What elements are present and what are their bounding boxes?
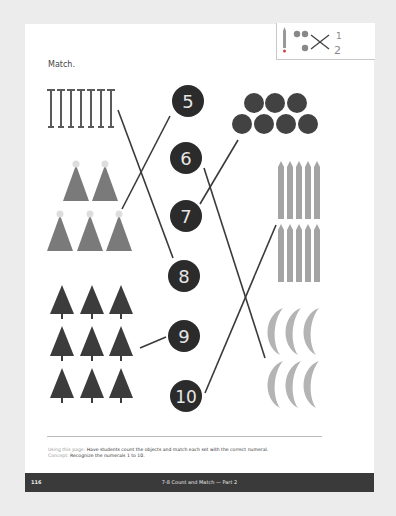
banana-icon bbox=[268, 308, 283, 355]
banana-icon bbox=[304, 308, 319, 355]
tree-icon bbox=[80, 285, 104, 319]
banana-icon bbox=[286, 361, 301, 408]
tree-icon bbox=[80, 368, 104, 403]
pomegranate-icon bbox=[298, 114, 318, 134]
tree-icon bbox=[50, 326, 74, 361]
numeral-9: 9 bbox=[168, 320, 200, 352]
svg-text:10: 10 bbox=[175, 387, 197, 407]
match-line-trees-9 bbox=[140, 337, 166, 348]
teacher-note: Using this page: Have students count the… bbox=[48, 447, 268, 459]
concept-note: Concept: Recognize the numerals 1 to 10. bbox=[48, 453, 268, 459]
pomegranate-icon bbox=[265, 93, 285, 113]
tree-icon bbox=[109, 368, 133, 403]
numeral-8: 8 bbox=[168, 260, 200, 292]
banana-icon bbox=[304, 361, 319, 408]
footer-bar: 116 7-8 Count and Match — Part 2 bbox=[25, 473, 374, 492]
nail-icon bbox=[87, 89, 95, 128]
numeral-10: 10 bbox=[170, 380, 202, 412]
nail-icon bbox=[57, 89, 65, 128]
party-hat-icon bbox=[63, 161, 89, 202]
lesson-title: 7-8 Count and Match — Part 2 bbox=[25, 479, 374, 485]
numeral-circles: 5 6 7 8 9 10 bbox=[168, 85, 204, 412]
tree-icon bbox=[50, 368, 74, 403]
matching-activity: 5 6 7 8 9 10 bbox=[0, 0, 396, 516]
svg-text:8: 8 bbox=[178, 266, 189, 287]
party-hat-icon bbox=[92, 161, 118, 202]
pencil-icon bbox=[314, 161, 320, 219]
svg-text:9: 9 bbox=[178, 326, 189, 347]
pencil-icon bbox=[296, 161, 302, 219]
party-hat-icon bbox=[106, 211, 132, 252]
banana-icon bbox=[268, 361, 283, 408]
tree-icon bbox=[109, 285, 133, 319]
pencil-icon bbox=[287, 161, 293, 219]
footer-divider bbox=[47, 436, 322, 437]
svg-text:7: 7 bbox=[180, 206, 191, 227]
pomegranate-icon bbox=[254, 114, 274, 134]
pomegranate-icon bbox=[244, 93, 264, 113]
match-line-10-pencils bbox=[205, 225, 276, 393]
party-hat-icon bbox=[77, 211, 103, 252]
svg-text:5: 5 bbox=[182, 91, 193, 112]
party-hat-icon bbox=[47, 211, 73, 252]
pencil-icon bbox=[314, 224, 320, 282]
pencil-icon bbox=[278, 224, 284, 282]
pomegranates-set bbox=[232, 93, 318, 134]
match-line-5-hats bbox=[122, 116, 170, 209]
tree-icon bbox=[50, 285, 74, 319]
pomegranate-icon bbox=[276, 114, 296, 134]
pencil-icon bbox=[305, 161, 311, 219]
bananas-set bbox=[268, 308, 319, 408]
nail-icon bbox=[77, 89, 85, 128]
pencils-set bbox=[278, 161, 320, 282]
trees-set bbox=[50, 285, 133, 403]
pencil-icon bbox=[278, 161, 284, 219]
tree-icon bbox=[80, 326, 104, 361]
numeral-6: 6 bbox=[170, 142, 202, 174]
svg-text:6: 6 bbox=[180, 148, 191, 169]
pomegranate-icon bbox=[232, 114, 252, 134]
numeral-5: 5 bbox=[172, 85, 204, 117]
pomegranate-icon bbox=[287, 93, 307, 113]
pencil-icon bbox=[305, 224, 311, 282]
pencil-icon bbox=[296, 224, 302, 282]
nail-icon bbox=[47, 89, 55, 128]
nail-icon bbox=[107, 89, 115, 128]
tree-icon bbox=[109, 326, 133, 361]
pencil-icon bbox=[287, 224, 293, 282]
banana-icon bbox=[286, 308, 301, 355]
match-line-6-bananas bbox=[204, 168, 265, 358]
nail-icon bbox=[97, 89, 105, 128]
numeral-7: 7 bbox=[170, 200, 202, 232]
party-hats-set bbox=[47, 161, 132, 252]
nails-set bbox=[47, 89, 115, 128]
nail-icon bbox=[67, 89, 75, 128]
